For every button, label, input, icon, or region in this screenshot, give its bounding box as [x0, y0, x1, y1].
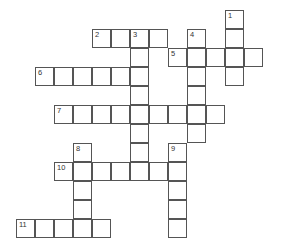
crossword-cell[interactable]: 2: [92, 29, 111, 48]
crossword-cell[interactable]: 9: [168, 143, 187, 162]
crossword-cell[interactable]: [111, 162, 130, 181]
crossword-cell[interactable]: [73, 162, 92, 181]
crossword-cell[interactable]: [130, 86, 149, 105]
crossword-cell[interactable]: [244, 48, 263, 67]
crossword-cell[interactable]: [54, 219, 73, 238]
crossword-cell[interactable]: 8: [73, 143, 92, 162]
clue-number: 11: [19, 221, 27, 229]
crossword-cell[interactable]: [111, 105, 130, 124]
clue-number: 7: [57, 107, 61, 115]
crossword-cell[interactable]: [187, 124, 206, 143]
crossword-cell[interactable]: [73, 181, 92, 200]
crossword-cell[interactable]: [130, 143, 149, 162]
crossword-cell[interactable]: [92, 105, 111, 124]
crossword-cell[interactable]: [149, 162, 168, 181]
crossword-cell[interactable]: [206, 48, 225, 67]
crossword-cell[interactable]: [111, 29, 130, 48]
crossword-cell[interactable]: [73, 219, 92, 238]
crossword-cell[interactable]: 1: [225, 10, 244, 29]
crossword-cell[interactable]: [168, 219, 187, 238]
clue-number: 2: [95, 31, 99, 39]
crossword-cell[interactable]: [225, 67, 244, 86]
crossword-cell[interactable]: [149, 105, 168, 124]
crossword-cell[interactable]: [206, 105, 225, 124]
clue-number: 4: [190, 31, 194, 39]
crossword-cell[interactable]: [187, 86, 206, 105]
crossword-cell[interactable]: [187, 105, 206, 124]
crossword-cell[interactable]: [92, 162, 111, 181]
crossword-cell[interactable]: 10: [54, 162, 73, 181]
crossword-cell[interactable]: [73, 67, 92, 86]
crossword-cell[interactable]: [225, 29, 244, 48]
crossword-cell[interactable]: [92, 219, 111, 238]
crossword-cell[interactable]: [130, 124, 149, 143]
crossword-cell[interactable]: 11: [16, 219, 35, 238]
clue-number: 6: [38, 69, 42, 77]
crossword-cell[interactable]: [225, 48, 244, 67]
crossword-cell[interactable]: 6: [35, 67, 54, 86]
crossword-cell[interactable]: [92, 67, 111, 86]
crossword-cell[interactable]: [73, 105, 92, 124]
crossword-cell[interactable]: 5: [168, 48, 187, 67]
crossword-cell[interactable]: [130, 162, 149, 181]
crossword-cell[interactable]: 7: [54, 105, 73, 124]
clue-number: 10: [57, 164, 65, 172]
crossword-cell[interactable]: [130, 105, 149, 124]
clue-number: 1: [228, 12, 232, 20]
crossword-cell[interactable]: [168, 200, 187, 219]
crossword-cell[interactable]: [54, 67, 73, 86]
crossword-cell[interactable]: [187, 48, 206, 67]
crossword-cell[interactable]: [168, 105, 187, 124]
crossword-cell[interactable]: [168, 162, 187, 181]
crossword-cell[interactable]: [168, 181, 187, 200]
crossword-cell[interactable]: [187, 67, 206, 86]
crossword-cell[interactable]: [111, 67, 130, 86]
crossword-cell[interactable]: [130, 67, 149, 86]
crossword-cell[interactable]: 3: [130, 29, 149, 48]
crossword-grid: 1234567891011: [0, 0, 282, 252]
clue-number: 3: [133, 31, 137, 39]
crossword-cell[interactable]: [73, 200, 92, 219]
clue-number: 8: [76, 145, 80, 153]
clue-number: 5: [171, 50, 175, 58]
crossword-cell[interactable]: [149, 29, 168, 48]
clue-number: 9: [171, 145, 175, 153]
crossword-cell[interactable]: [35, 219, 54, 238]
crossword-cell[interactable]: 4: [187, 29, 206, 48]
crossword-cell[interactable]: [130, 48, 149, 67]
